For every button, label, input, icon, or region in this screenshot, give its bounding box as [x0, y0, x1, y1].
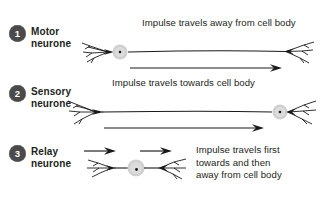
caption-motor-neurone: Impulse travels away from cell body [142, 17, 296, 30]
sensory-neurone-icon [60, 90, 322, 134]
nucleus [135, 168, 138, 171]
row-label-relay: 3 Relay neurone [9, 145, 71, 169]
axon [102, 111, 272, 112]
neurone-types-diagram: 1 Motor neurone Impulse travels away fro… [0, 0, 326, 198]
diagram-row-sensory-neurone: 2 Sensory neurone Impulse travels toward… [0, 74, 326, 132]
row-label-motor: 1 Motor neurone [9, 25, 71, 49]
step-badge-3: 3 [9, 145, 26, 162]
nucleus [279, 111, 282, 114]
step-badge-1: 1 [9, 25, 26, 42]
impulse-arrow-motor [130, 64, 282, 72]
dendrites-left [68, 101, 96, 124]
diagram-row-motor-neurone: 1 Motor neurone Impulse travels away fro… [0, 14, 326, 72]
diagram-row-relay-neurone: 3 Relay neurone Impulse travels first to… [0, 134, 326, 196]
cell-body-inner [130, 162, 142, 174]
motor-neurone-icon [78, 30, 318, 74]
dendrites-left [87, 160, 112, 177]
impulse-arrow-relay-out [140, 147, 172, 155]
relay-neurone-icon [82, 138, 190, 194]
dendrites-left [82, 43, 108, 63]
axon [128, 51, 286, 52]
impulse-arrow-relay-in [84, 147, 116, 155]
caption-sensory-neurone: Impulse travels towards cell body [112, 77, 255, 90]
neurone-name-motor: Motor neurone [31, 25, 71, 49]
step-badge-2: 2 [9, 85, 26, 102]
caption-relay-neurone: Impulse travels first towards and then a… [196, 144, 282, 182]
neurone-name-relay: Relay neurone [31, 145, 71, 169]
impulse-arrow-sensory [104, 124, 264, 132]
nucleus [119, 51, 122, 54]
